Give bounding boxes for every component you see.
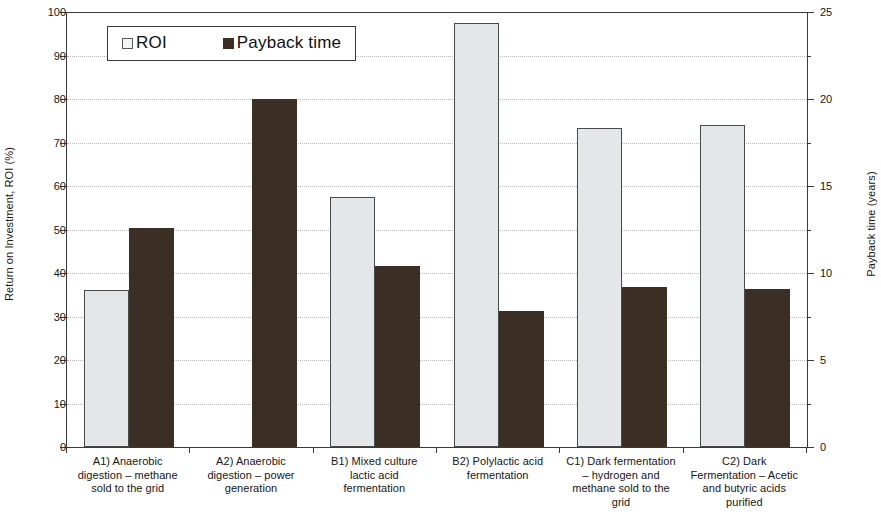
gridline — [67, 404, 807, 405]
y-axis-right-tick-label: 20 — [820, 93, 854, 105]
gridline — [67, 99, 807, 100]
bar-roi — [454, 23, 499, 447]
x-axis-category-line: purified — [726, 496, 762, 508]
x-axis-category-line: digestion – methane — [78, 469, 178, 481]
legend-label-payback-time: Payback time — [237, 33, 341, 53]
x-axis-category-line: and butyric acids — [703, 482, 786, 494]
bar-payback-time — [745, 289, 790, 447]
x-axis-category-line: generation — [225, 482, 278, 494]
bar-payback-time — [129, 228, 174, 447]
y-axis-left-tick-label: 20 — [26, 354, 66, 366]
x-axis-category-line: methane sold to the — [572, 482, 670, 494]
x-axis-category-line: C2) Dark — [722, 455, 766, 467]
x-axis-category-label: B1) Mixed culturelactic acidfermentation — [313, 455, 436, 496]
y-axis-left-tick-label: 100 — [26, 6, 66, 18]
legend-swatch-roi-icon — [122, 38, 133, 49]
x-axis-category-line: fermentation — [467, 469, 529, 481]
y-axis-left-title: Return on Investment, ROI (%) — [0, 0, 18, 447]
y-axis-left-tick-label: 30 — [26, 311, 66, 323]
y-axis-right-tick-label: 10 — [820, 267, 854, 279]
gridline — [67, 12, 807, 13]
x-axis-category-line: sold to the grid — [91, 482, 164, 494]
y-axis-left-tick-label: 0 — [26, 441, 66, 453]
x-axis-category-line: C1) Dark fermentation — [566, 455, 675, 467]
gridline — [67, 143, 807, 144]
legend-item-roi: ROI — [122, 33, 167, 53]
bar-roi — [700, 125, 745, 447]
x-axis-category-label: C2) DarkFermentation – Aceticand butyric… — [683, 455, 806, 509]
bar-roi — [577, 128, 622, 447]
legend-label-roi: ROI — [136, 33, 167, 53]
x-axis-category-line: B1) Mixed culture — [331, 455, 417, 467]
y-axis-left-tick-label: 40 — [26, 267, 66, 279]
y-axis-right-tick-label: 5 — [820, 354, 854, 366]
bar-payback-time — [375, 266, 420, 447]
y-axis-left-tick-label: 50 — [26, 224, 66, 236]
y-axis-right-tick-label: 25 — [820, 6, 854, 18]
x-axis-category-line: B2) Polylactic acid — [452, 455, 543, 467]
y-axis-right-tick-label: 0 — [820, 441, 854, 453]
x-axis-category-line: lactic acid — [350, 469, 399, 481]
y-axis-right-tick — [807, 447, 814, 448]
legend-item-payback-time: Payback time — [223, 33, 341, 53]
y-axis-right-tick — [807, 12, 814, 13]
x-axis-category-line: digestion – power — [207, 469, 294, 481]
x-axis-category-line: Fermentation – Acetic — [691, 469, 798, 481]
y-axis-left-title-text: Return on Investment, ROI (%) — [3, 147, 15, 301]
y-axis-left-tick-label: 10 — [26, 398, 66, 410]
x-axis-category-line: grid — [612, 496, 631, 508]
bar-payback-time — [499, 311, 544, 447]
chart-container: Return on Investment, ROI (%) Payback ti… — [0, 0, 881, 523]
gridline — [67, 317, 807, 318]
gridline — [67, 186, 807, 187]
y-axis-right-tick — [807, 99, 814, 100]
bar-payback-time — [622, 287, 667, 447]
x-axis-category-label: A1) Anaerobicdigestion – methanesold to … — [66, 455, 189, 496]
chart-legend: ROI Payback time — [107, 26, 356, 61]
gridline — [67, 273, 807, 274]
y-axis-left-tick-label: 60 — [26, 180, 66, 192]
x-axis-category-line: A2) Anaerobic — [216, 455, 286, 467]
bar-roi — [330, 197, 375, 447]
gridlines — [67, 12, 807, 447]
x-axis-category-line: fermentation — [343, 482, 405, 494]
gridline — [67, 230, 807, 231]
y-axis-right-tick — [807, 360, 814, 361]
y-axis-left-tick-label: 90 — [26, 50, 66, 62]
x-axis-category-line: – hydrogen and — [582, 469, 659, 481]
y-axis-right-tick-label: 15 — [820, 180, 854, 192]
y-axis-right-title-text: Payback time (years) — [865, 171, 877, 276]
x-axis-category-label: C1) Dark fermentation– hydrogen andmetha… — [559, 455, 682, 509]
x-axis-category-label: B2) Polylactic acidfermentation — [436, 455, 559, 482]
y-axis-left-tick-label: 70 — [26, 137, 66, 149]
y-axis-right-tick — [807, 273, 814, 274]
y-axis-right-tick — [807, 186, 814, 187]
legend-swatch-payback-icon — [223, 38, 234, 49]
bar-payback-time — [252, 99, 297, 447]
gridline — [67, 360, 807, 361]
x-axis-category-label: A2) Anaerobicdigestion – powergeneration — [189, 455, 312, 496]
plot-area — [66, 12, 808, 448]
bar-roi — [84, 290, 129, 447]
x-axis-category-line: A1) Anaerobic — [93, 455, 163, 467]
y-axis-right-title: Payback time (years) — [861, 0, 881, 447]
y-axis-left-tick-label: 80 — [26, 93, 66, 105]
